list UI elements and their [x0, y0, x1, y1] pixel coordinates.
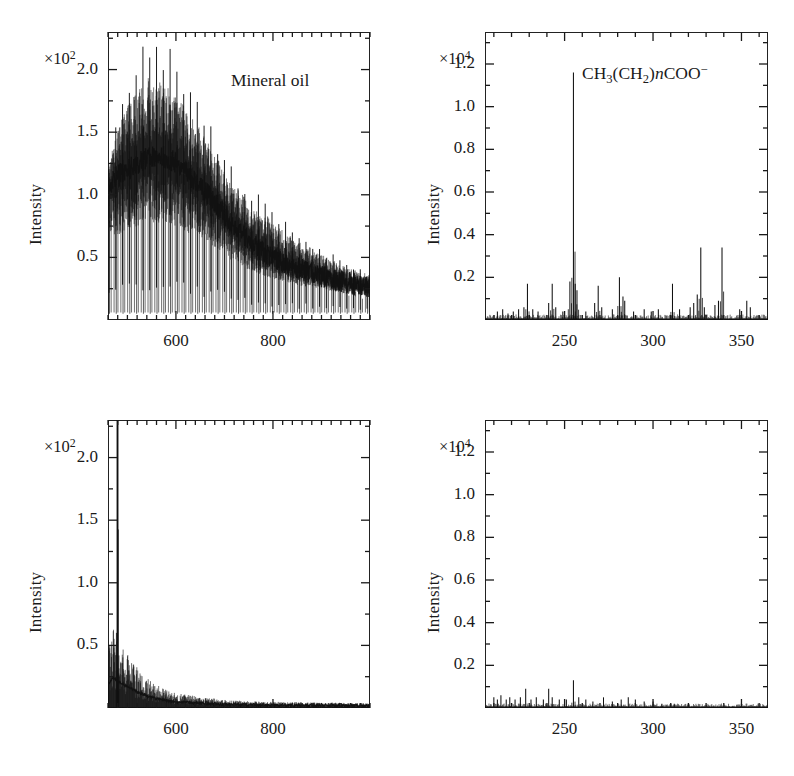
x-tick-label-bottom-right-350: 350: [711, 719, 771, 739]
annotation-top-left: Mineral oil: [231, 70, 309, 91]
x-tick-label-top-right-300: 300: [623, 331, 683, 351]
x-tick-label-bottom-left-600: 600: [146, 719, 206, 739]
x-tick-label-bottom-right-300: 300: [623, 719, 683, 739]
y-tick-label-top-left-2.0: 2.0: [46, 59, 98, 79]
y-tick-label-top-right-0.6: 0.6: [423, 181, 475, 201]
y-tick-label-top-right-1.0: 1.0: [423, 96, 475, 116]
x-tick-label-top-right-250: 250: [535, 331, 595, 351]
mass-spectra-figure: Intensity ×102 Mineral oil6008000.51.01.…: [0, 0, 794, 776]
panel-top-right: Intensity ×104 CH3(CH2)nCOO− 2503003500.…: [397, 0, 794, 388]
y-tick-label-bottom-left-2.0: 2.0: [46, 447, 98, 467]
y-tick-label-bottom-right-0.6: 0.6: [423, 569, 475, 589]
x-tick-label-top-left-600: 600: [146, 331, 206, 351]
y-tick-label-top-right-0.8: 0.8: [423, 138, 475, 158]
y-tick-label-top-right-0.2: 0.2: [423, 266, 475, 286]
panel-bottom-right: Intensity ×104 Mass/u 2503003500.20.40.6…: [397, 388, 794, 776]
y-tick-label-bottom-right-0.8: 0.8: [423, 526, 475, 546]
y-tick-label-top-right-1.2: 1.2: [423, 53, 475, 73]
y-tick-label-bottom-left-1.0: 1.0: [46, 572, 98, 592]
x-tick-label-bottom-right-250: 250: [535, 719, 595, 739]
y-tick-label-top-left-1.0: 1.0: [46, 184, 98, 204]
x-tick-label-top-right-350: 350: [711, 331, 771, 351]
y-tick-label-bottom-right-0.4: 0.4: [423, 612, 475, 632]
y-tick-label-bottom-right-0.2: 0.2: [423, 654, 475, 674]
panel-top-left: Intensity ×102 Mineral oil6008000.51.01.…: [0, 0, 397, 388]
y-tick-label-bottom-left-1.5: 1.5: [46, 509, 98, 529]
y-tick-label-bottom-right-1.0: 1.0: [423, 484, 475, 504]
x-tick-label-bottom-left-800: 800: [243, 719, 303, 739]
x-tick-label-top-left-800: 800: [243, 331, 303, 351]
y-tick-label-top-right-0.4: 0.4: [423, 224, 475, 244]
y-tick-label-top-left-1.5: 1.5: [46, 121, 98, 141]
panel-bottom-left: Intensity ×102 Mass/u 6008000.51.01.52.0: [0, 388, 397, 776]
y-tick-label-bottom-right-1.2: 1.2: [423, 441, 475, 461]
y-tick-label-top-left-0.5: 0.5: [46, 246, 98, 266]
y-tick-label-bottom-left-0.5: 0.5: [46, 634, 98, 654]
